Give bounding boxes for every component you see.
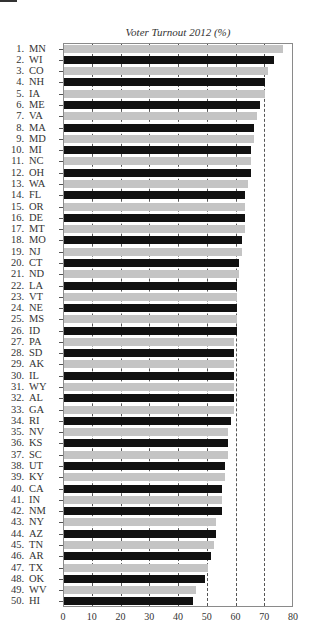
row-label: 46.AR [0,550,57,561]
state-abbreviation: NV [29,426,44,437]
rank-number: 44. [0,528,24,539]
rank-number: 46. [0,550,24,561]
bar-md [64,135,254,143]
row-label: 49.WV [0,584,57,595]
state-abbreviation: DE [29,212,43,223]
row-label: 48.OK [0,573,57,584]
state-abbreviation: ID [29,325,40,336]
state-abbreviation: WV [29,584,47,595]
bar-ca [64,485,222,493]
rank-number: 35. [0,426,24,437]
row-label: 26.ID [0,325,57,336]
row-label: 4.NH [0,76,57,87]
row-label: 18.MO [0,234,57,245]
state-abbreviation: MS [29,313,44,324]
row-label: 31.WY [0,381,57,392]
rank-number: 11. [0,155,24,166]
plot-area [63,43,293,607]
state-abbreviation: SC [29,449,42,460]
row-label: 24.NE [0,302,57,313]
rank-number: 32. [0,392,24,403]
row-label: 1.MN [0,43,57,54]
rank-number: 33. [0,404,24,415]
bar-va [64,112,257,120]
bar-ia [64,90,265,98]
rank-number: 12. [0,167,24,178]
rank-number: 6. [0,99,24,110]
bar-pa [64,338,234,346]
row-label: 45.TN [0,539,57,550]
state-abbreviation: WY [29,381,47,392]
rank-number: 21. [0,268,24,279]
x-tick-label: 80 [283,611,303,622]
rank-number: 23. [0,291,24,302]
row-label: 30.IL [0,370,57,381]
bar-wa [64,180,248,188]
bar-ga [64,406,234,414]
gridline [264,44,265,606]
row-label: 14.FL [0,189,57,200]
state-abbreviation: ME [29,99,45,110]
row-label: 15.OR [0,201,57,212]
rank-number: 7. [0,110,24,121]
row-label: 2.WI [0,54,57,65]
x-tick-label: 20 [111,611,131,622]
row-label: 43.NY [0,516,57,527]
state-abbreviation: IN [29,494,40,505]
row-label: 28.SD [0,347,57,358]
x-tick-label: 30 [139,611,159,622]
state-abbreviation: AZ [29,528,43,539]
bar-wi [64,56,274,64]
state-abbreviation: CO [29,65,44,76]
state-abbreviation: MD [29,133,46,144]
state-abbreviation: AR [29,550,44,561]
bar-mo [64,236,242,244]
state-abbreviation: TX [29,562,43,573]
row-label: 35.NV [0,426,57,437]
rank-number: 8. [0,122,24,133]
state-abbreviation: AL [29,392,43,403]
state-abbreviation: KY [29,471,44,482]
rank-number: 2. [0,54,24,65]
rank-number: 10. [0,144,24,155]
row-label: 12.OH [0,167,57,178]
bar-ms [64,315,237,323]
bar-nv [64,428,228,436]
rank-number: 1. [0,43,24,54]
state-abbreviation: VA [29,110,43,121]
bar-tx [64,564,208,572]
bar-sd [64,349,234,357]
state-abbreviation: UT [29,460,43,471]
rank-number: 5. [0,88,24,99]
row-label: 34.RI [0,415,57,426]
state-abbreviation: NM [29,505,46,516]
rank-number: 14. [0,189,24,200]
state-abbreviation: FL [29,189,41,200]
rank-number: 47. [0,562,24,573]
state-abbreviation: MT [29,223,45,234]
rank-number: 31. [0,381,24,392]
bar-oh [64,169,251,177]
bar-mt [64,225,245,233]
state-abbreviation: WI [29,54,42,65]
row-label: 3.CO [0,65,57,76]
rank-number: 49. [0,584,24,595]
row-label: 40.CA [0,483,57,494]
rank-number: 25. [0,313,24,324]
rank-number: 50. [0,595,24,606]
state-abbreviation: VT [29,291,43,302]
state-abbreviation: IA [29,88,40,99]
state-abbreviation: IL [29,370,39,381]
rank-number: 19. [0,246,24,257]
bar-vt [64,293,237,301]
rank-number: 39. [0,471,24,482]
row-label: 6.ME [0,99,57,110]
rank-number: 20. [0,257,24,268]
state-abbreviation: RI [29,415,40,426]
row-label: 10.MI [0,144,57,155]
row-label: 8.MA [0,122,57,133]
bar-ma [64,124,254,132]
rank-number: 15. [0,201,24,212]
row-label: 7.VA [0,110,57,121]
bar-or [64,203,245,211]
